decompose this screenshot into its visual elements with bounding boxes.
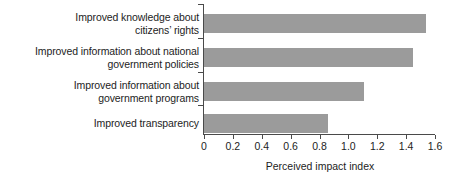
bar-0 (204, 14, 426, 33)
x-tick-label-7: 1.4 (399, 140, 414, 152)
x-tick-6 (377, 135, 378, 139)
category-label-2: Improved information about government pr… (0, 79, 199, 104)
y-tick-2 (198, 72, 203, 73)
x-tick-4 (320, 135, 321, 139)
bar-chart: Improved knowledge about citizens’ right… (0, 0, 451, 182)
x-tick-2 (262, 135, 263, 139)
plot-area (204, 0, 451, 134)
x-tick-label-8: 1.6 (428, 140, 443, 152)
y-tick-0 (198, 4, 203, 5)
x-axis-title: Perceived impact index (204, 160, 436, 172)
x-tick-label-3: 0.6 (283, 140, 298, 152)
y-axis-line (203, 4, 204, 135)
x-tick-8 (435, 135, 436, 139)
x-tick-5 (348, 135, 349, 139)
x-tick-label-4: 0.8 (312, 140, 327, 152)
category-label-3: Improved transparency (0, 117, 199, 130)
category-label-0: Improved knowledge about citizens’ right… (0, 11, 199, 36)
bar-1 (204, 48, 413, 67)
bar-3 (204, 114, 328, 133)
x-tick-0 (204, 135, 205, 139)
x-tick-label-1: 0.2 (226, 140, 241, 152)
x-tick-label-5: 1.0 (341, 140, 356, 152)
x-tick-label-0: 0 (201, 140, 207, 152)
category-label-1: Improved information about national gove… (0, 45, 199, 70)
x-tick-label-2: 0.4 (254, 140, 269, 152)
x-tick-1 (233, 135, 234, 139)
y-tick-3 (198, 105, 203, 106)
y-tick-1 (198, 38, 203, 39)
bar-2 (204, 82, 364, 101)
x-tick-7 (406, 135, 407, 139)
x-tick-3 (291, 135, 292, 139)
x-tick-label-6: 1.2 (370, 140, 385, 152)
category-axis-labels: Improved knowledge about citizens’ right… (0, 0, 199, 134)
